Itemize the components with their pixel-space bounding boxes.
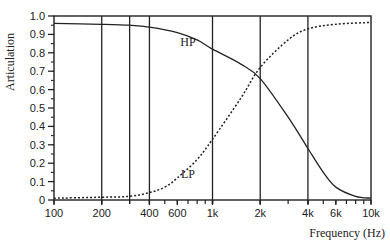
x-tick-label: 2k xyxy=(254,207,266,219)
y-axis-title: Articulation xyxy=(3,33,17,91)
series-labels: HPLP xyxy=(180,35,196,181)
x-tick-label: 10k xyxy=(362,207,380,219)
label-hp: HP xyxy=(180,35,196,49)
label-lp: LP xyxy=(181,167,195,181)
y-axis-ticks: 00.10.20.30.40.50.60.70.80.91.0 xyxy=(30,10,54,206)
x-tick-label: 6k xyxy=(330,207,342,219)
y-tick-label: 0.5 xyxy=(30,102,45,114)
articulation-chart: 00.10.20.30.40.50.60.70.80.91.0 10020040… xyxy=(0,0,390,246)
y-tick-label: 0.9 xyxy=(30,28,45,40)
x-axis-title: Frequency (Hz) xyxy=(309,226,385,240)
y-tick-label: 0.2 xyxy=(30,157,45,169)
x-tick-label: 400 xyxy=(140,207,158,219)
y-tick-label: 0.6 xyxy=(30,84,45,96)
y-tick-label: 0 xyxy=(39,194,45,206)
y-tick-label: 0.8 xyxy=(30,47,45,59)
x-tick-label: 100 xyxy=(45,207,63,219)
y-tick-label: 0.7 xyxy=(30,65,45,77)
x-tick-label: 4k xyxy=(302,207,314,219)
x-tick-label: 200 xyxy=(93,207,111,219)
y-tick-label: 1.0 xyxy=(30,10,45,22)
y-tick-label: 0.4 xyxy=(30,120,45,132)
y-tick-label: 0.1 xyxy=(30,176,45,188)
x-axis-ticks: 1002004006001k2k4k6k10k xyxy=(45,200,381,219)
y-tick-label: 0.3 xyxy=(30,139,45,151)
x-tick-label: 1k xyxy=(207,207,219,219)
x-tick-label: 600 xyxy=(168,207,186,219)
